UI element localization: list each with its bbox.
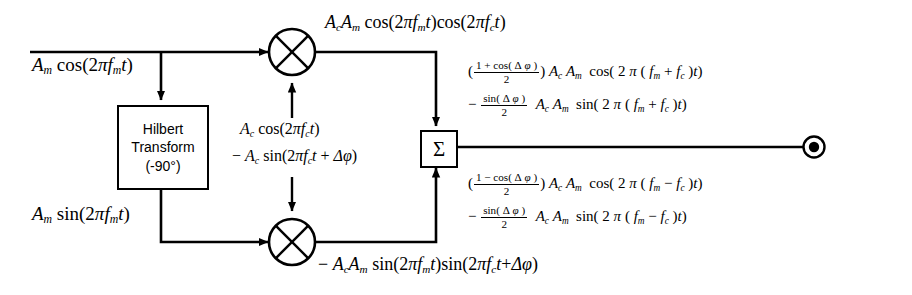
mixer-bottom-glyph [269,219,315,265]
mixer-top-glyph [269,29,315,75]
block-diagram-canvas: Hilbert Transform (-90°) Σ Am cos(2πfmt)… [0,0,912,295]
wire-bottom-mixer-to-summer [315,168,436,242]
input-label-bottom: Am sin(2πfmt) [32,204,130,227]
summing-junction-block[interactable]: Σ [420,130,458,168]
mixer-bottom-output-label: − AcAm sin(2πfmt)sin(2πfct+Δφ) [318,255,538,276]
output-terminal-glyph[interactable] [804,137,825,158]
wire-top-mixer-to-summer [315,52,436,126]
mixer-top-output-label: AcAm cos(2πfmt)cos(2πfct) [325,13,506,34]
hilbert-label-line1: Hilbert [143,120,183,138]
wire-hilbert-to-bottom-mixer [161,186,268,242]
equation-upper-line2: − sin( Δ φ )2 Ac Am sin( 2 π ( fm + fc )… [468,93,687,118]
hilbert-label-line2: Transform [131,138,194,156]
hilbert-label-line3: (-90°) [145,157,180,175]
carrier-label-top: Ac cos(2πfct) [240,121,320,139]
equation-upper-line1: (1 + cos( Δ φ )2) Ac Am cos( 2 π ( fm + … [468,60,702,85]
sigma-icon: Σ [433,137,445,162]
carrier-label-bottom: − Ac sin(2πfct + Δφ) [232,148,357,166]
input-label-top: Am cos(2πfmt) [32,55,133,78]
hilbert-transform-block[interactable]: Hilbert Transform (-90°) [117,105,209,190]
equation-lower-line1: (1 − cos( Δ φ )2) Ac Am cos( 2 π ( fm − … [468,172,702,197]
equation-lower-line2: − sin( Δ φ )2 Ac Am sin( 2 π ( fm − fc )… [468,205,687,230]
